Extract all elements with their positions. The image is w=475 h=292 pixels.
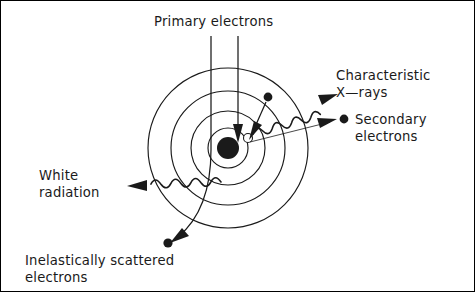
secondary-arrowhead-icon [317,118,337,128]
label-white-line2: radiation [39,185,100,200]
white-radiation-arrowhead-icon [127,180,147,191]
xray-arrowhead-icon [318,94,338,105]
label-inelastic-line2: electrons [25,270,88,285]
label-primary-electrons: Primary electrons [154,14,273,29]
label-characteristic-line1: Characteristic [336,68,431,83]
label-characteristic-line2: X—rays [336,85,388,100]
scattered-electron-dot-icon [163,238,172,247]
wavy-photon-icon [151,174,222,191]
secondary-electron-dot-icon [340,115,349,124]
primary-beam-left-scattered-path [178,36,211,237]
label-secondary-line1: Secondary [355,112,427,127]
nucleus-icon [217,137,239,159]
label-secondary-line2: electrons [355,129,418,144]
diagram-canvas: Primary electrons Characteristic X—rays … [0,0,475,292]
electron-dot-icon [264,93,273,102]
inelastic-arrowhead-icon [170,228,189,243]
label-white-line1: White [39,168,78,183]
label-inelastic-line1: Inelastically scattered [25,253,174,268]
atom-interaction-diagram: Primary electrons Characteristic X—rays … [0,0,475,292]
